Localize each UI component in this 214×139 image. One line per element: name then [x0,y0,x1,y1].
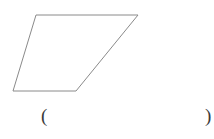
parallelogram-outline [13,15,138,91]
answer-open-paren: ( [41,106,47,125]
parallelogram-figure [0,0,214,100]
answer-blank-field[interactable] [52,106,203,128]
answer-close-paren: ) [205,106,211,125]
figure-area [0,0,214,100]
answer-row: ( ) [0,100,214,139]
page-root: ( ) [0,0,214,139]
